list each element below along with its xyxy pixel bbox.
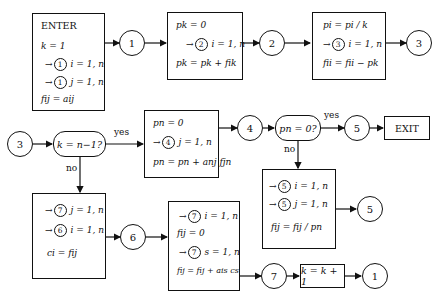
pn-loop: →4j = 1, n xyxy=(153,136,212,149)
pn-line: pn = 0 xyxy=(153,118,184,128)
divide-line: fij = fij / pn xyxy=(271,222,322,232)
decision-k: k = n−1? xyxy=(53,131,106,157)
connector-5-div: 5 xyxy=(357,196,383,222)
copy-loop-i: →6i = 1, n xyxy=(45,224,104,237)
accumulate-box: →7i = 1, n fij = 0 →7s = 1, n fij = fij … xyxy=(168,201,240,291)
acc-zero-line: fij = 0 xyxy=(177,228,205,238)
pn-box: pn = 0 →4j = 1, n pn = pn + anj fjn xyxy=(144,110,219,178)
p-sum-line: pk = pk + fik xyxy=(176,58,236,68)
loop-ref-icon: 1 xyxy=(54,58,67,71)
p-init-line: pk = 0 xyxy=(176,20,206,30)
normalize-line: pi = pi / k xyxy=(323,20,368,30)
loop-ref-icon: 7 xyxy=(54,204,67,217)
connector-5: 5 xyxy=(344,115,370,141)
loop-ref-icon: 7 xyxy=(188,210,201,223)
normalize-box: pi = pi / k →3i = 1, n fii = fii − pk xyxy=(312,12,386,80)
increment-box: k = k + 1 xyxy=(300,264,345,288)
connector-2: 2 xyxy=(259,30,285,56)
exit-box: EXIT xyxy=(384,116,430,140)
acc-loop-s: →7s = 1, n xyxy=(179,246,240,259)
decision-pn: pn = 0? xyxy=(275,115,321,141)
connector-3: 3 xyxy=(406,30,432,56)
enter-loop-i: →1i = 1, n xyxy=(45,58,104,71)
enter-line-k: k = 1 xyxy=(41,41,65,51)
loop-ref-icon: 6 xyxy=(54,224,67,237)
copy-box: →7j = 1, n →6i = 1, n ci = fij xyxy=(32,193,106,279)
no-label: no xyxy=(66,163,77,173)
enter-loop-j: →1j = 1, n xyxy=(45,76,104,89)
loop-ref-icon: 7 xyxy=(188,246,201,259)
loop-ref-icon: 4 xyxy=(162,136,175,149)
copy-line: ci = fij xyxy=(47,248,77,258)
connector-1-end: 1 xyxy=(362,263,388,289)
yes-label: yes xyxy=(324,110,339,120)
connector-4: 4 xyxy=(237,115,263,141)
pn-sum-line: pn = pn + anj fjn xyxy=(153,157,231,167)
p-init-loop: →2i = 1, n xyxy=(186,38,245,51)
fii-line: fii = fii − pk xyxy=(323,58,379,68)
copy-loop-j: →7j = 1, n xyxy=(45,204,104,217)
loop-ref-icon: 5 xyxy=(278,180,291,193)
acc-sum-line: fij = fij + ais cs xyxy=(177,266,239,275)
enter-line-f: fij = aij xyxy=(41,94,74,104)
loop-ref-icon: 3 xyxy=(332,38,345,51)
yes-label: yes xyxy=(114,127,129,137)
no-label: no xyxy=(284,144,295,154)
loop-ref-icon: 5 xyxy=(278,198,291,211)
acc-loop-i: →7i = 1, n xyxy=(179,210,238,223)
loop-ref-icon: 2 xyxy=(195,38,208,51)
divide-loop-j: →5j = 1, n xyxy=(269,198,328,211)
loop-ref-icon: 1 xyxy=(54,76,67,89)
connector-6: 6 xyxy=(120,224,146,250)
enter-box: ENTER k = 1 →1i = 1, n →1j = 1, n fij = … xyxy=(32,13,105,111)
enter-title: ENTER xyxy=(41,20,77,31)
normalize-loop: →3i = 1, n xyxy=(323,38,382,51)
connector-7: 7 xyxy=(261,263,287,289)
p-init-box: pk = 0 →2i = 1, n pk = pk + fik xyxy=(167,12,243,80)
divide-loop-i: →5i = 1, n xyxy=(269,180,328,193)
connector-3-entry: 3 xyxy=(7,131,33,157)
divide-box: →5i = 1, n →5j = 1, n fij = fij / pn xyxy=(262,169,336,249)
connector-1: 1 xyxy=(119,30,145,56)
